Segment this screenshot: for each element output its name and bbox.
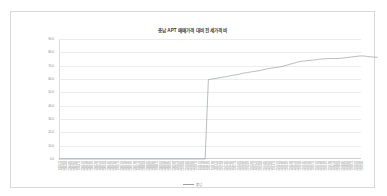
x-axis-tick-label: 2009.07 [169, 161, 172, 170]
y-axis-tick-label: 90.0 [48, 37, 54, 41]
y-axis-tick-label: 30.0 [48, 117, 54, 121]
x-axis-tick-label: 2013.07 [247, 161, 250, 170]
series-line-chungnam [59, 39, 361, 159]
x-axis-tick-label: 2016.11 [312, 161, 315, 170]
x-axis-tick-label: 2008.11 [156, 161, 159, 170]
x-axis-tick-label: 2012.03 [221, 161, 224, 170]
chart-title: 충남 APT 매매가격 대비 전세가격 비 [11, 27, 374, 33]
legend-label-chungnam: 충남 [196, 182, 202, 187]
x-axis-tick-label: 2018.11 [351, 161, 354, 170]
y-axis-tick-label: 20.0 [48, 130, 54, 134]
chart-card: 충남 APT 매매가격 대비 전세가격 비 0.010.020.030.040.… [10, 11, 375, 188]
y-axis-tick-labels: 0.010.020.030.040.050.060.070.080.090.0 [11, 39, 57, 159]
x-axis-tick-label: 2015.07 [286, 161, 289, 170]
y-axis-tick-label: 0.0 [50, 157, 54, 161]
x-axis-tick-label: 2008.03 [143, 161, 146, 170]
x-axis-tick-label: 2019.05 [361, 161, 364, 170]
plot-area [59, 39, 361, 159]
x-axis-tick-labels: 2003.112004.012004.032004.052004.072004.… [59, 161, 361, 183]
y-axis-tick-label: 40.0 [48, 104, 54, 108]
y-axis-tick-label: 80.0 [48, 50, 54, 54]
x-axis-tick-label: 2006.11 [117, 161, 120, 170]
x-axis-tick-label: 2017.07 [325, 161, 328, 170]
legend-swatch-chungnam [183, 184, 194, 185]
x-axis-tick-label: 2011.07 [208, 161, 211, 170]
x-axis-tick-label: 2006.03 [104, 161, 107, 170]
x-axis-tick-label: 2014.11 [273, 161, 276, 170]
y-axis-tick-label: 60.0 [48, 77, 54, 81]
x-axis-tick-label: 2007.07 [130, 161, 133, 170]
x-axis-tick-label: 2018.03 [338, 161, 341, 170]
x-axis-tick-label: 2016.03 [299, 161, 302, 170]
x-axis-tick-label: 2012.11 [234, 161, 237, 170]
chart-legend: 충남 [11, 182, 374, 187]
x-axis-tick-label: 2014.03 [260, 161, 263, 170]
y-axis-tick-label: 50.0 [48, 90, 54, 94]
x-axis-tick-label: 2010.11 [195, 161, 198, 170]
y-axis-tick-label: 70.0 [48, 64, 54, 68]
x-axis-tick-label: 2010.03 [182, 161, 185, 170]
y-axis-tick-label: 10.0 [48, 144, 54, 148]
